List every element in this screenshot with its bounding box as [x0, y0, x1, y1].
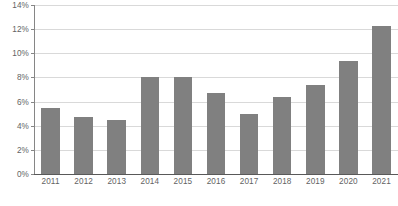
- x-axis-tick-label: 2014: [133, 177, 166, 186]
- bar[interactable]: [41, 108, 60, 174]
- y-axis-line: [34, 5, 35, 175]
- bar-series: [34, 5, 398, 174]
- bar-slot: [67, 5, 100, 174]
- x-axis-tick-label: 2019: [299, 177, 332, 186]
- bar[interactable]: [339, 61, 358, 174]
- x-axis-tick-label: 2016: [199, 177, 232, 186]
- bar-slot: [133, 5, 166, 174]
- y-axis-tick-label: 6%: [17, 97, 34, 106]
- bar-slot: [299, 5, 332, 174]
- bar-chart: 0%2%4%6%8%10%12%14% 20112012201320142015…: [0, 0, 398, 206]
- x-axis-tick-label: 2017: [233, 177, 266, 186]
- x-axis-tick-labels: 2011201220132014201520162017201820192020…: [34, 177, 398, 186]
- bar-slot: [266, 5, 299, 174]
- x-axis-tick-label: 2020: [332, 177, 365, 186]
- bar-slot: [332, 5, 365, 174]
- x-axis-tick-label: 2015: [166, 177, 199, 186]
- y-axis-tick-label: 0%: [17, 170, 34, 179]
- x-axis-tick-label: 2021: [365, 177, 398, 186]
- y-axis-tick-label: 8%: [17, 73, 34, 82]
- bar[interactable]: [174, 77, 193, 174]
- y-axis-tick-label: 10%: [12, 49, 34, 58]
- bar[interactable]: [273, 97, 292, 174]
- bar-slot: [233, 5, 266, 174]
- x-axis-line: [34, 174, 398, 175]
- plot-area: 0%2%4%6%8%10%12%14%: [34, 5, 398, 174]
- x-axis-tick-label: 2013: [100, 177, 133, 186]
- bar[interactable]: [240, 114, 259, 174]
- bar[interactable]: [372, 26, 391, 174]
- bar[interactable]: [141, 77, 160, 174]
- bar-slot: [34, 5, 67, 174]
- bar[interactable]: [74, 117, 93, 174]
- x-axis-tick-label: 2018: [266, 177, 299, 186]
- bar[interactable]: [306, 85, 325, 174]
- bar-slot: [166, 5, 199, 174]
- bar[interactable]: [207, 93, 226, 174]
- bar-slot: [199, 5, 232, 174]
- bar-slot: [100, 5, 133, 174]
- y-axis-tick-label: 4%: [17, 121, 34, 130]
- y-axis-tick-label: 14%: [12, 1, 34, 10]
- y-axis-tick-label: 12%: [12, 25, 34, 34]
- x-axis-tick-label: 2012: [67, 177, 100, 186]
- y-axis-tick-label: 2%: [17, 145, 34, 154]
- bar-slot: [365, 5, 398, 174]
- bar[interactable]: [107, 120, 126, 174]
- x-axis-tick-label: 2011: [34, 177, 67, 186]
